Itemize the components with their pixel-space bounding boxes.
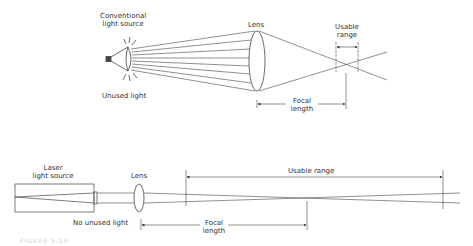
- laser-beam: [97, 193, 460, 203]
- bottom-focal-length-label: Focal length: [200, 219, 228, 235]
- no-unused-light-label: No unused light: [73, 219, 128, 227]
- label-line: Focal: [287, 97, 317, 105]
- label-line: Usable: [334, 23, 360, 31]
- top-usable-range-label: Usable range: [334, 23, 360, 39]
- label-line: Laser: [30, 164, 76, 172]
- diagram-canvas: [0, 0, 473, 246]
- laser-light-source: [15, 184, 97, 212]
- label-line: light source: [30, 172, 76, 180]
- conventional-light-rays: [131, 31, 255, 91]
- bottom-usable-range-bracket: [186, 170, 443, 209]
- label-line: Focal: [200, 219, 228, 227]
- laser-light-source-label: Laser light source: [30, 164, 76, 180]
- top-lens: [249, 31, 265, 91]
- conventional-light-source-label: Conventional light source: [100, 12, 146, 28]
- label-line: length: [287, 105, 317, 113]
- top-converging-rays: [259, 31, 387, 91]
- label-line: Conventional: [100, 12, 146, 20]
- bottom-lens: [134, 184, 144, 212]
- bottom-lens-label: Lens: [131, 172, 147, 180]
- unused-light-label: Unused light: [102, 92, 146, 100]
- label-line: length: [200, 227, 228, 235]
- label-line: range: [334, 31, 360, 39]
- top-lens-label: Lens: [248, 21, 264, 29]
- top-focal-length-label: Focal length: [287, 97, 317, 113]
- label-line: light source: [100, 20, 146, 28]
- conventional-light-source-icon: [106, 37, 137, 81]
- bottom-usable-range-label: Usable range: [288, 167, 334, 175]
- figure-caption: FIGURE 5-10: [20, 237, 69, 244]
